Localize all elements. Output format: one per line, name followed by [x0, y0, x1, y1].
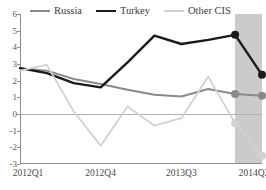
x-tick-label: 2013Q3 [166, 168, 197, 179]
legend-swatch-other-cis [164, 10, 184, 12]
x-tick-label: 2012Q1 [13, 168, 44, 179]
forecast-marker-other-cis [258, 152, 266, 160]
forecast-marker-turkey [258, 71, 266, 79]
plot-area [20, 14, 262, 164]
x-tick-label: 2014Q2 [239, 168, 266, 179]
legend-swatch-turkey [96, 10, 116, 12]
legend-swatch-russia [30, 10, 50, 12]
forecast-marker-turkey [231, 31, 239, 39]
y-tick-label: -1 [10, 126, 18, 135]
y-axis: 6543210-1-2-3 [0, 14, 20, 164]
series-layer [20, 14, 262, 164]
x-tick-label: 2012Q4 [85, 168, 116, 179]
y-tick-label: -2 [10, 143, 18, 152]
x-axis: 2012Q12012Q42013Q32014Q2 [20, 166, 262, 188]
chart-container: Russia Turkey Other CIS 6543210-1-2-3 20… [0, 0, 266, 190]
y-tick-mark [17, 164, 20, 165]
forecast-marker-russia [258, 92, 266, 100]
forecast-marker-other-cis [231, 119, 239, 127]
forecast-marker-russia [231, 90, 239, 98]
series-line-other-cis [20, 65, 262, 156]
